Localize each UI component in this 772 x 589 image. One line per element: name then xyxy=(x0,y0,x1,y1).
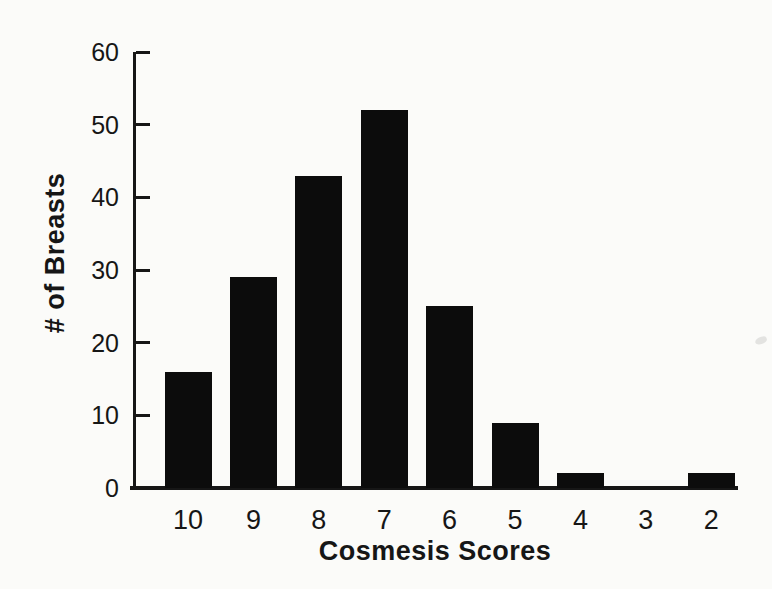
y-tick-label-40: 40 xyxy=(67,183,119,211)
y-tick-30 xyxy=(136,269,150,272)
figure-canvas: { "figure": { "background_color": "#fbfb… xyxy=(0,0,772,589)
scan-artifact xyxy=(754,335,768,345)
bar-score-7 xyxy=(361,110,408,488)
y-tick-10 xyxy=(136,414,150,417)
cosmesis-histogram-figure: # of Breasts 0102030405060 1098765432 Co… xyxy=(0,0,772,589)
y-tick-label-50: 50 xyxy=(67,111,119,139)
y-tick-label-0: 0 xyxy=(67,474,119,502)
x-tick-label-9: 9 xyxy=(221,505,285,535)
x-tick-label-8: 8 xyxy=(287,505,351,535)
y-tick-20 xyxy=(136,341,150,344)
bar-score-4 xyxy=(557,473,604,488)
bar-score-9 xyxy=(230,277,277,488)
plot-area: 0102030405060 1098765432 xyxy=(133,52,737,488)
x-tick-label-6: 6 xyxy=(418,505,482,535)
x-tick-label-10: 10 xyxy=(156,505,220,535)
y-tick-label-30: 30 xyxy=(67,256,119,284)
y-axis-title: # of Breasts xyxy=(40,173,71,334)
x-tick-label-5: 5 xyxy=(483,505,547,535)
x-tick-label-3: 3 xyxy=(614,505,678,535)
x-tick-label-4: 4 xyxy=(548,505,612,535)
bar-score-6 xyxy=(426,306,473,488)
x-tick-label-7: 7 xyxy=(352,505,416,535)
y-tick-label-10: 10 xyxy=(67,401,119,429)
bar-score-2 xyxy=(688,473,735,488)
y-tick-label-20: 20 xyxy=(67,329,119,357)
x-tick-label-2: 2 xyxy=(679,505,743,535)
bar-score-10 xyxy=(165,372,212,488)
y-tick-label-60: 60 xyxy=(67,38,119,66)
y-tick-50 xyxy=(136,123,150,126)
x-axis-title: Cosmesis Scores xyxy=(133,536,737,567)
y-tick-40 xyxy=(136,196,150,199)
bar-score-8 xyxy=(295,176,342,488)
bar-score-5 xyxy=(492,423,539,488)
y-tick-60 xyxy=(136,51,150,54)
